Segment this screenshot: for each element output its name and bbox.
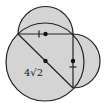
- diagonal-length-label: 4√2: [24, 67, 43, 78]
- geometry-diagram: 4√2: [0, 0, 111, 103]
- large-circle-center-point: [43, 59, 47, 63]
- top-circle-center-point: [43, 32, 47, 36]
- circle-fills: [6, 7, 100, 102]
- right-circle-center-point: [71, 59, 75, 63]
